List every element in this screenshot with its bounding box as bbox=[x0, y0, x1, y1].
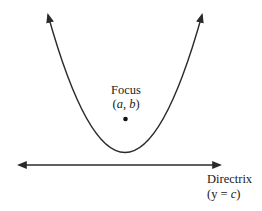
focus-coords: (a, b) bbox=[112, 97, 139, 111]
focus-point bbox=[123, 117, 128, 122]
directrix-label: Directrix bbox=[207, 172, 253, 186]
focus-label: Focus bbox=[111, 83, 141, 97]
directrix-equation: (y = c) bbox=[207, 187, 240, 201]
parabola-diagram: Focus (a, b) Directrix (y = c) bbox=[0, 0, 262, 211]
